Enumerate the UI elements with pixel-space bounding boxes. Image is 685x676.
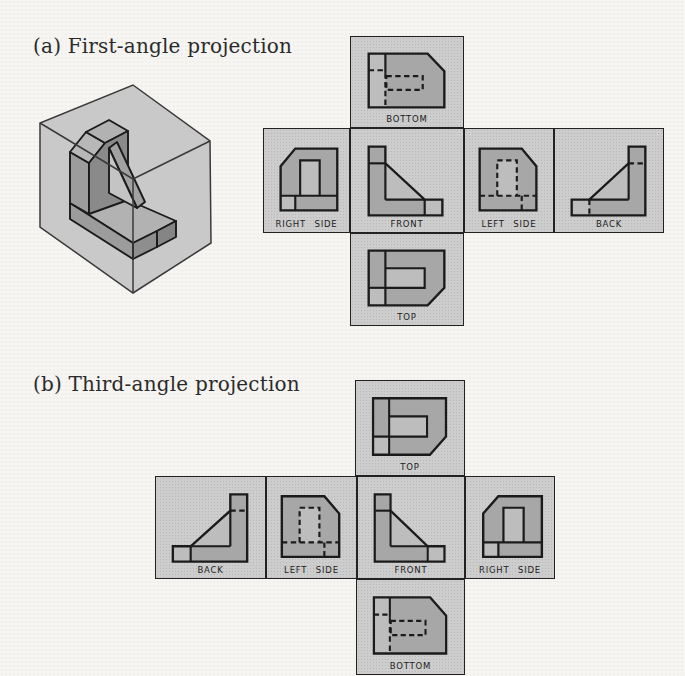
- panel-a-front: FRONT: [350, 128, 464, 233]
- front-view-drawing: [358, 477, 464, 578]
- view-label: FRONT: [358, 565, 464, 575]
- panel-a-bottom: BOTTOM: [350, 36, 464, 128]
- panel-b-top: TOP: [355, 380, 465, 476]
- view-label: RIGHT SIDE: [466, 565, 554, 575]
- left-side-view-drawing: [465, 129, 553, 232]
- isometric-pictorial: [28, 74, 222, 300]
- top-view-drawing: [356, 381, 464, 475]
- panel-a-right-side: RIGHT SIDE: [263, 128, 350, 233]
- panel-a-left-side: LEFT SIDE: [464, 128, 554, 233]
- back-view-drawing: [156, 477, 265, 578]
- view-label: TOP: [351, 312, 463, 322]
- view-label: BACK: [555, 219, 663, 229]
- figure-a-title: (a) First-angle projection: [33, 34, 292, 58]
- front-view-drawing: [351, 129, 463, 232]
- right-side-view-drawing: [264, 129, 349, 232]
- panel-a-back: BACK: [554, 128, 664, 233]
- bottom-view-drawing: [357, 580, 464, 674]
- panel-b-front: FRONT: [357, 476, 465, 579]
- right-side-view-drawing: [466, 477, 554, 578]
- panel-b-bottom: BOTTOM: [356, 579, 465, 675]
- view-label: BOTTOM: [351, 114, 463, 124]
- view-label: TOP: [356, 462, 464, 472]
- view-label: LEFT SIDE: [267, 565, 356, 575]
- panel-b-right-side: RIGHT SIDE: [465, 476, 555, 579]
- panel-b-left-side: LEFT SIDE: [266, 476, 357, 579]
- left-side-view-drawing: [267, 477, 356, 578]
- view-label: BOTTOM: [357, 661, 464, 671]
- view-label: LEFT SIDE: [465, 219, 553, 229]
- view-label: FRONT: [351, 219, 463, 229]
- view-label: RIGHT SIDE: [264, 219, 349, 229]
- panel-b-back: BACK: [155, 476, 266, 579]
- view-label: BACK: [156, 565, 265, 575]
- back-view-drawing: [555, 129, 663, 232]
- panel-a-top: TOP: [350, 233, 464, 326]
- figure-canvas: (a) First-angle projection (b) Third-ang…: [0, 0, 685, 676]
- figure-b-title: (b) Third-angle projection: [33, 372, 300, 396]
